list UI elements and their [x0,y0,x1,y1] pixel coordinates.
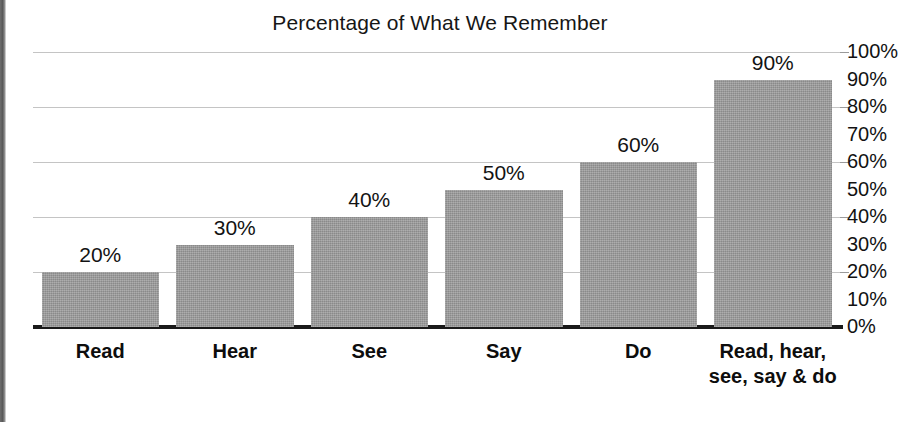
category-label: See [292,339,447,364]
page-edge-artifact [0,0,6,422]
chart-screenshot: Percentage of What We Remember 20%30%40%… [0,0,921,422]
y-axis-label: 50% [847,179,887,199]
bar-value-label: 90% [714,51,832,75]
bar-value-label: 50% [445,161,563,185]
y-axis-label: 90% [847,69,887,89]
y-axis-label: 10% [847,289,887,309]
y-axis-label: 40% [847,206,887,226]
chart-title: Percentage of What We Remember [0,11,880,35]
category-label: Read, hear, see, say & do [696,339,851,389]
y-axis-label: 100% [847,41,898,61]
bar-series: 20%30%40%50%60%90% [33,52,840,327]
category-label: Do [561,339,716,364]
category-label: Hear [158,339,313,364]
bar [580,162,698,327]
y-axis-label: 80% [847,96,887,116]
y-axis-label: 0% [847,316,876,336]
bar-value-label: 30% [176,216,294,240]
bar [42,272,160,327]
y-axis-label: 30% [847,234,887,254]
category-label: Say [427,339,582,364]
bar [714,80,832,328]
bar-value-label: 60% [580,133,698,157]
bar [176,245,294,328]
bar [311,217,429,327]
category-label: Read [23,339,178,364]
bar [445,190,563,328]
bar-value-label: 40% [311,188,429,212]
bar-value-label: 20% [42,243,160,267]
y-axis-label: 20% [847,261,887,281]
y-axis-label: 60% [847,151,887,171]
y-axis-label: 70% [847,124,887,144]
